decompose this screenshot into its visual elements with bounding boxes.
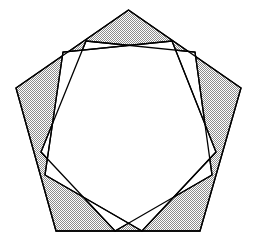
pentagon-figure xyxy=(0,0,257,242)
pentagon-figure-svg xyxy=(0,0,257,242)
